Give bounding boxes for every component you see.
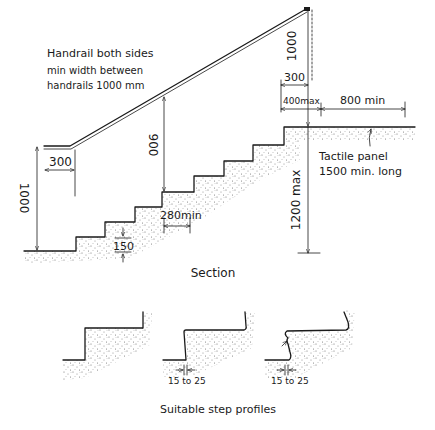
step-profile-1 bbox=[63, 312, 152, 380]
dim-label-300-top: 300 bbox=[284, 71, 305, 84]
note-handrail-3: handrails 1000 mm bbox=[47, 80, 144, 91]
note-handrail-2: min width between bbox=[47, 65, 143, 76]
dim-label-riser: 150 bbox=[113, 240, 134, 253]
note-tactile-2: 1500 min. long bbox=[319, 165, 402, 178]
step-profile-3: 15 to 25 bbox=[265, 310, 355, 386]
dim-label-1000-bottom: 1000 bbox=[17, 183, 31, 214]
section-title: Section bbox=[191, 266, 236, 280]
dim-label-900: 900 bbox=[146, 134, 160, 157]
stair-fill bbox=[24, 127, 415, 264]
note-tactile-1: Tactile panel bbox=[318, 150, 388, 163]
dim-label-going: 280min bbox=[160, 209, 202, 222]
note-handrail-1: Handrail both sides bbox=[47, 47, 154, 60]
dim-label-1000-top: 1000 bbox=[285, 31, 299, 62]
stair-section: 1000 300 900 280min 150 1000 300 400max bbox=[17, 7, 415, 280]
step-profile-2: 15 to 25 bbox=[163, 312, 255, 386]
handrail bbox=[44, 7, 310, 149]
nosing-label-2: 15 to 25 bbox=[271, 376, 309, 386]
dim-label-300-bottom: 300 bbox=[49, 155, 72, 169]
stair-diagram: 1000 300 900 280min 150 1000 300 400max bbox=[0, 0, 435, 430]
nosing-pointer bbox=[282, 341, 287, 346]
nosing-label-1: 15 to 25 bbox=[168, 376, 206, 386]
dim-label-400max: 400max bbox=[283, 96, 320, 106]
dim-label-800min: 800 min bbox=[340, 94, 385, 107]
dim-label-1200max: 1200 max bbox=[289, 170, 303, 231]
profiles-title: Suitable step profiles bbox=[160, 403, 276, 416]
